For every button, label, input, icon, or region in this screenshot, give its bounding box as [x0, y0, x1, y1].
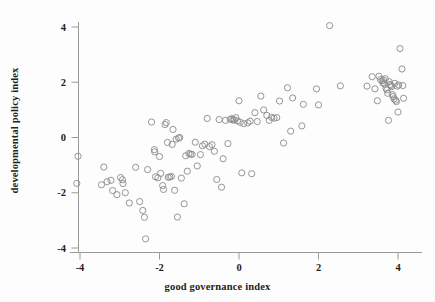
data-point — [280, 140, 286, 146]
data-point — [194, 163, 200, 169]
data-point — [315, 102, 321, 108]
data-point-group — [74, 23, 407, 242]
data-point — [249, 171, 255, 177]
data-point — [369, 74, 375, 80]
data-point — [372, 86, 378, 92]
data-point — [252, 110, 258, 116]
x-tick-label: 2 — [316, 262, 321, 273]
data-point — [239, 170, 245, 176]
data-point — [385, 117, 391, 123]
x-axis-ticks: -4-2024 — [76, 253, 402, 274]
data-point — [364, 83, 370, 89]
data-point — [192, 139, 198, 145]
data-point — [172, 187, 178, 193]
data-point — [104, 179, 110, 185]
data-point — [184, 168, 190, 174]
data-point — [337, 83, 343, 89]
data-point — [170, 126, 176, 132]
data-point — [313, 86, 319, 92]
data-point — [178, 175, 184, 181]
data-point — [395, 109, 401, 115]
data-point — [225, 140, 231, 146]
data-point — [114, 192, 120, 198]
data-point — [214, 176, 220, 182]
y-axis-title: developmental policy index — [10, 67, 21, 193]
plot-canvas: -4-2024 -4-2024 — [0, 0, 435, 302]
data-point — [327, 23, 333, 29]
data-point — [374, 98, 380, 104]
data-point — [126, 200, 132, 206]
data-point — [148, 119, 154, 125]
data-point — [299, 123, 305, 129]
data-point — [254, 118, 260, 124]
data-point — [141, 214, 147, 220]
data-point — [216, 116, 222, 122]
x-tick-label: -2 — [155, 262, 164, 273]
data-point — [122, 190, 128, 196]
data-point — [120, 181, 126, 187]
data-point — [258, 93, 264, 99]
data-point — [140, 207, 146, 213]
data-point — [101, 164, 107, 170]
data-point — [156, 153, 162, 159]
y-axis-ticks: -4-2024 — [57, 22, 78, 254]
data-point — [290, 95, 296, 101]
data-point — [236, 98, 242, 104]
data-point — [400, 95, 406, 101]
x-tick-label: 4 — [395, 262, 401, 273]
y-tick-label: 0 — [61, 132, 66, 143]
data-point — [276, 98, 282, 104]
y-tick-label: 2 — [61, 77, 66, 88]
data-point — [220, 156, 226, 162]
x-tick-label: -4 — [76, 262, 85, 273]
data-point — [218, 184, 224, 190]
y-tick-label: -4 — [57, 243, 66, 254]
data-point — [399, 66, 405, 72]
data-point — [142, 236, 148, 242]
data-point — [288, 128, 294, 134]
data-point — [108, 177, 114, 183]
data-point — [160, 186, 166, 192]
data-point — [211, 148, 217, 154]
data-point — [133, 164, 139, 170]
data-point — [155, 175, 161, 181]
y-tick-label: 4 — [61, 22, 67, 33]
x-axis-title: good governance index — [0, 281, 435, 292]
data-point — [137, 198, 143, 204]
data-point — [284, 85, 290, 91]
data-point — [181, 201, 187, 207]
axis-lines — [70, 22, 422, 253]
data-point — [163, 119, 169, 125]
data-point — [197, 152, 203, 158]
y-axis-title-wrapper: developmental policy index — [0, 0, 30, 260]
scatter-plot-figure: -4-2024 -4-2024 developmental policy ind… — [0, 0, 435, 302]
data-point — [174, 214, 180, 220]
data-point — [300, 101, 306, 107]
data-point — [204, 115, 210, 121]
data-point — [397, 45, 403, 51]
y-tick-label: -2 — [57, 187, 66, 198]
data-point — [144, 166, 150, 172]
x-tick-label: 0 — [236, 262, 241, 273]
data-point — [158, 170, 164, 176]
